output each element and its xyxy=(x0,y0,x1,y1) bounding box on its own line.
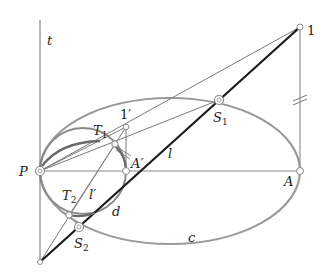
label-S1: S1 xyxy=(213,110,228,127)
point-1 xyxy=(297,24,303,30)
point-A-prime xyxy=(123,168,130,175)
label-1-prime: 1′ xyxy=(120,107,131,122)
label-l-prime: l′ xyxy=(89,187,96,202)
label-A: A xyxy=(283,174,293,189)
label-S2: S2 xyxy=(74,236,89,253)
point-S1 xyxy=(215,96,224,105)
point-T1 xyxy=(112,141,118,147)
label-c: c xyxy=(188,230,196,245)
point-S2 xyxy=(75,223,84,232)
geometry-diagram: t 1 1′ T1 S1 P A′ l A T2 l′ d S2 c xyxy=(0,0,328,276)
label-P: P xyxy=(18,164,28,179)
point-T2 xyxy=(66,212,72,218)
line-P-1prime xyxy=(40,127,126,171)
point-bottom xyxy=(38,260,43,265)
label-d: d xyxy=(112,204,120,219)
label-T1: T1 xyxy=(93,123,107,140)
label-1: 1 xyxy=(307,23,315,38)
label-l: l xyxy=(168,146,172,161)
point-1prime xyxy=(123,124,129,130)
label-A-prime: A′ xyxy=(130,156,143,171)
label-T2: T2 xyxy=(62,188,76,205)
point-A xyxy=(297,168,304,175)
point-P xyxy=(36,167,45,176)
label-t: t xyxy=(47,33,53,48)
